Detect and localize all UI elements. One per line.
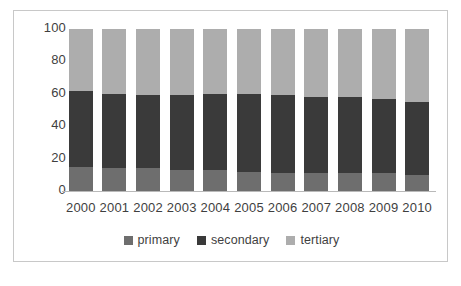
bar-column-2002[interactable] xyxy=(136,29,160,191)
x-axis: 2000200120022003200420052006200720082009… xyxy=(64,200,434,220)
bar-column-2010[interactable] xyxy=(405,29,429,191)
legend-swatch-secondary-icon xyxy=(197,236,206,245)
bar-segment-tertiary-2008[interactable] xyxy=(338,29,362,97)
bar-segment-primary-2005[interactable] xyxy=(237,172,261,191)
bar-column-2006[interactable] xyxy=(271,29,295,191)
chart-frame: 100806040200 200020012002200320042005200… xyxy=(13,10,448,262)
bar-segment-primary-2000[interactable] xyxy=(69,167,93,191)
legend-item-secondary[interactable]: secondary xyxy=(197,233,270,247)
bar-segment-secondary-2006[interactable] xyxy=(271,95,295,173)
bar-segment-secondary-2008[interactable] xyxy=(338,97,362,173)
y-axis-tick-40: 40 xyxy=(34,120,66,130)
bar-column-2009[interactable] xyxy=(372,29,396,191)
plot-area xyxy=(64,29,434,191)
bar-segment-secondary-2001[interactable] xyxy=(102,94,126,169)
bar-segment-tertiary-2003[interactable] xyxy=(170,29,194,95)
bar-segment-secondary-2000[interactable] xyxy=(69,91,93,167)
legend-item-primary[interactable]: primary xyxy=(124,233,180,247)
bar-segment-secondary-2009[interactable] xyxy=(372,99,396,174)
bar-segment-primary-2003[interactable] xyxy=(170,170,194,191)
bar-segment-primary-2007[interactable] xyxy=(304,173,328,191)
bar-column-2005[interactable] xyxy=(237,29,261,191)
legend-label-secondary: secondary xyxy=(211,233,270,247)
bar-segment-secondary-2005[interactable] xyxy=(237,94,261,172)
y-axis-tick-100: 100 xyxy=(34,23,66,33)
y-axis-tick-80: 80 xyxy=(34,55,66,65)
x-axis-tick-2010: 2010 xyxy=(397,200,437,215)
bar-column-2004[interactable] xyxy=(203,29,227,191)
chart-legend: primarysecondarytertiary xyxy=(14,233,449,247)
x-axis-line xyxy=(62,191,436,192)
bar-segment-tertiary-2002[interactable] xyxy=(136,29,160,95)
bar-segment-tertiary-2006[interactable] xyxy=(271,29,295,95)
bar-segment-tertiary-2005[interactable] xyxy=(237,29,261,94)
legend-swatch-primary-icon xyxy=(124,236,133,245)
bar-segment-tertiary-2004[interactable] xyxy=(203,29,227,94)
bar-segment-primary-2008[interactable] xyxy=(338,173,362,191)
bar-segment-tertiary-2001[interactable] xyxy=(102,29,126,94)
bar-segment-secondary-2002[interactable] xyxy=(136,95,160,168)
bar-segment-primary-2002[interactable] xyxy=(136,168,160,191)
bar-column-2000[interactable] xyxy=(69,29,93,191)
bar-segment-primary-2010[interactable] xyxy=(405,175,429,191)
bar-segment-tertiary-2010[interactable] xyxy=(405,29,429,102)
bar-segment-primary-2009[interactable] xyxy=(372,173,396,191)
y-axis-tick-0: 0 xyxy=(34,185,66,195)
bar-segment-tertiary-2007[interactable] xyxy=(304,29,328,97)
bar-column-2003[interactable] xyxy=(170,29,194,191)
y-axis-tick-60: 60 xyxy=(34,88,66,98)
legend-item-tertiary[interactable]: tertiary xyxy=(286,233,339,247)
bar-segment-primary-2006[interactable] xyxy=(271,173,295,191)
bar-segment-primary-2004[interactable] xyxy=(203,170,227,191)
bar-segment-secondary-2007[interactable] xyxy=(304,97,328,173)
legend-swatch-tertiary-icon xyxy=(286,236,295,245)
y-axis-tick-20: 20 xyxy=(34,153,66,163)
bar-segment-secondary-2004[interactable] xyxy=(203,94,227,170)
bar-column-2007[interactable] xyxy=(304,29,328,191)
bar-segment-tertiary-2009[interactable] xyxy=(372,29,396,99)
bar-segment-tertiary-2000[interactable] xyxy=(69,29,93,91)
bar-segment-secondary-2010[interactable] xyxy=(405,102,429,175)
bar-segment-secondary-2003[interactable] xyxy=(170,95,194,170)
bar-segment-primary-2001[interactable] xyxy=(102,168,126,191)
legend-label-primary: primary xyxy=(138,233,180,247)
plot-wrapper: 100806040200 200020012002200320042005200… xyxy=(14,11,449,263)
y-axis: 100806040200 xyxy=(34,28,66,196)
legend-label-tertiary: tertiary xyxy=(300,233,339,247)
bar-column-2001[interactable] xyxy=(102,29,126,191)
bar-column-2008[interactable] xyxy=(338,29,362,191)
